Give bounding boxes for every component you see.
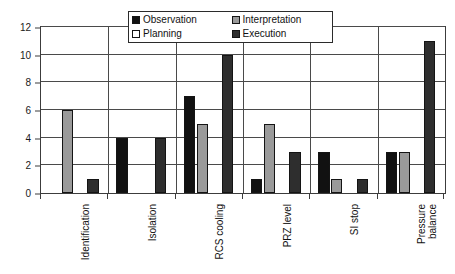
chart-legend: ObservationInterpretationPlanningExecuti… [128,11,333,43]
bar-execution-isolation [155,138,166,193]
legend-item-planning[interactable]: Planning [132,29,230,39]
bar-execution-pressure-balance [424,41,435,193]
legend-item-interpretation[interactable]: Interpretation [232,15,330,25]
y-axis-tick [35,111,40,112]
y-axis-tick-label: 0 [25,189,31,199]
y-axis-tick [35,166,40,167]
bar-chart: 024681012 IdentificationIsolationRCS coo… [0,0,455,274]
legend-swatch-icon [132,30,140,38]
bar-observation-si-stop [318,152,329,194]
bar-interpretation-prz-level [264,124,275,193]
x-axis-tick [377,194,378,199]
legend-item-execution[interactable]: Execution [232,29,330,39]
bar-observation-pressure-balance [386,152,397,194]
legend-label: Interpretation [243,15,302,25]
legend-label: Observation [143,15,197,25]
x-axis-category-label: Pressure balance [416,204,438,274]
y-axis-tick [35,138,40,139]
legend-label: Execution [243,29,287,39]
y-axis-tick-label: 10 [20,51,31,61]
x-axis-category-label: Isolation [147,204,158,274]
x-axis-tick [175,194,176,199]
y-axis-tick [35,28,40,29]
bar-observation-isolation [116,138,127,193]
x-axis-tick [309,194,310,199]
legend-label: Planning [143,29,182,39]
bar-interpretation-rcs-cooling [197,124,208,193]
bar-execution-prz-level [289,152,300,194]
x-axis-category-label: SI stop [349,204,360,274]
y-axis-tick-label: 12 [20,23,31,33]
x-axis-tick [107,194,108,199]
y-axis-tick [35,55,40,56]
bars-container [41,27,445,193]
x-axis-category-label: PRZ level [282,204,293,274]
y-axis-tick-label: 6 [25,106,31,116]
legend-swatch-icon [232,16,240,24]
bar-observation-rcs-cooling [184,96,195,193]
y-axis-tick [35,83,40,84]
x-axis-tick [40,194,41,199]
x-axis-tick [242,194,243,199]
bar-interpretation-si-stop [331,179,342,193]
y-axis-tick-label: 8 [25,78,31,88]
x-axis-labels: IdentificationIsolationRCS coolingPRZ le… [40,200,446,274]
bar-execution-identification [87,179,98,193]
bar-execution-si-stop [357,179,368,193]
y-axis: 024681012 [0,26,40,194]
y-axis-tick-label: 2 [25,161,31,171]
legend-item-observation[interactable]: Observation [132,15,230,25]
bar-interpretation-identification [62,110,73,193]
y-axis-tick-label: 4 [25,134,31,144]
x-axis-category-label: Identification [80,204,91,274]
bar-interpretation-pressure-balance [399,152,410,194]
bar-execution-rcs-cooling [222,55,233,193]
x-axis-category-label: RCS cooling [214,204,225,274]
legend-swatch-icon [132,16,140,24]
legend-swatch-icon [232,30,240,38]
bar-observation-prz-level [251,179,262,193]
x-axis-tick [443,194,444,199]
